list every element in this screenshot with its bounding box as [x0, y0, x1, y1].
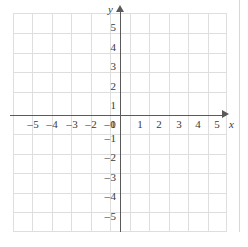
y-tick-label: –4 [94, 191, 116, 202]
y-tick-label: 5 [94, 22, 116, 33]
y-axis-label: y [108, 4, 113, 15]
y-tick-label: 1 [94, 100, 116, 111]
x-tick-label: 2 [149, 119, 169, 130]
origin-label: 0 [108, 119, 118, 130]
x-axis-arrow-icon [222, 110, 229, 118]
y-axis-line [120, 10, 121, 232]
x-tick-label: –5 [23, 119, 43, 130]
y-tick-label: 3 [94, 61, 116, 72]
coordinate-plane-figure: –5 –4 –3 –2 –1 1 2 3 4 5 5 4 3 2 1 –1 –2… [0, 0, 248, 247]
y-axis-arrow-icon [116, 5, 124, 12]
page-divider [239, 0, 240, 232]
x-tick-label: 1 [130, 119, 150, 130]
y-tick-label: –3 [94, 172, 116, 183]
x-axis-line [10, 115, 226, 116]
y-tick-label: –2 [94, 152, 116, 163]
y-tick-label: –5 [94, 211, 116, 222]
x-tick-label: 4 [188, 119, 208, 130]
x-tick-label: –2 [81, 119, 101, 130]
x-tick-label: 5 [207, 119, 227, 130]
x-tick-label: –3 [62, 119, 82, 130]
y-tick-label: 2 [94, 81, 116, 92]
y-tick-label: –1 [94, 133, 116, 144]
gridline-vertical [13, 13, 14, 232]
x-tick-label: –4 [42, 119, 62, 130]
x-axis-label: x [229, 119, 234, 130]
x-tick-label: 3 [169, 119, 189, 130]
y-tick-label: 4 [94, 42, 116, 53]
